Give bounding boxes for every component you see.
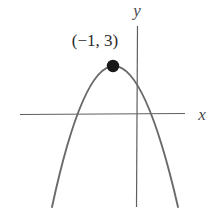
x-axis-label: x: [197, 105, 206, 124]
vertex-point-marker: [107, 60, 119, 72]
y-axis-label: y: [131, 1, 141, 20]
vertex-coordinate-label: (−1, 3): [72, 31, 118, 50]
parabola-figure: (−1, 3) y x: [0, 0, 219, 214]
